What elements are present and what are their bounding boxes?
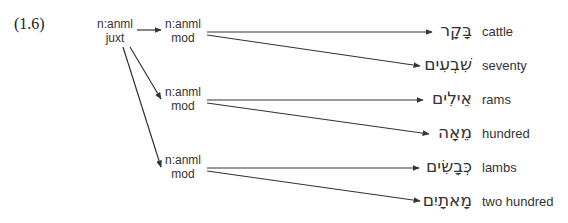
dependency-diagram: (1.6) n:anml juxt n:anml mod n:anml (0, 0, 568, 223)
hebrew-word-rams: אֵילִים (412, 88, 472, 108)
hebrew-word-seventy: שִׁבְעִים (412, 54, 472, 74)
arrow-root-to-mod3 (123, 47, 161, 167)
mod-node-1: n:anml mod (161, 17, 205, 45)
arrow-mod1-to-seventy (207, 35, 420, 66)
hebrew-word-hundred: מֵאָה (412, 122, 472, 142)
root-node: n:anml juxt (93, 17, 137, 45)
arrow-mod3-to-two-hundred (207, 171, 420, 201)
mod-node-label: n:anml (161, 85, 205, 99)
hebrew-word-lambs: כְּבָשִׂים (412, 156, 472, 176)
arrow-mod2-to-hundred (207, 103, 429, 134)
mod-node-3: n:anml mod (161, 153, 205, 181)
gloss-cattle: cattle (482, 24, 513, 39)
gloss-two-hundred: two hundred (482, 194, 554, 209)
mod-node-role: mod (161, 167, 205, 181)
root-node-role: juxt (93, 31, 137, 45)
mod-node-label: n:anml (161, 153, 205, 167)
mod-node-role: mod (161, 99, 205, 113)
hebrew-word-two-hundred: מָאתָיִם (412, 190, 472, 210)
mod-node-role: mod (161, 31, 205, 45)
gloss-rams: rams (482, 92, 511, 107)
arrow-root-to-mod2 (130, 47, 161, 99)
hebrew-word-cattle: בָּקָר (412, 20, 472, 40)
gloss-seventy: seventy (482, 58, 527, 73)
root-node-label: n:anml (93, 17, 137, 31)
mod-node-label: n:anml (161, 17, 205, 31)
mod-node-2: n:anml mod (161, 85, 205, 113)
gloss-lambs: lambs (482, 160, 517, 175)
gloss-hundred: hundred (482, 126, 530, 141)
